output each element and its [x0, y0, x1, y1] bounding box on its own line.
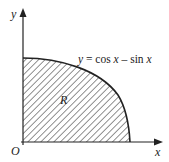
shaded-region-r	[23, 55, 133, 145]
x-axis-label: x	[154, 145, 161, 159]
y-axis-arrow-icon	[20, 8, 27, 17]
region-under-curve-diagram: y x O R y = cos x – sin x	[0, 0, 169, 162]
y-axis-label: y	[10, 7, 17, 21]
origin-label: O	[11, 144, 20, 158]
region-label: R	[59, 93, 68, 107]
curve-equation-label: y = cos x – sin x	[77, 53, 152, 66]
